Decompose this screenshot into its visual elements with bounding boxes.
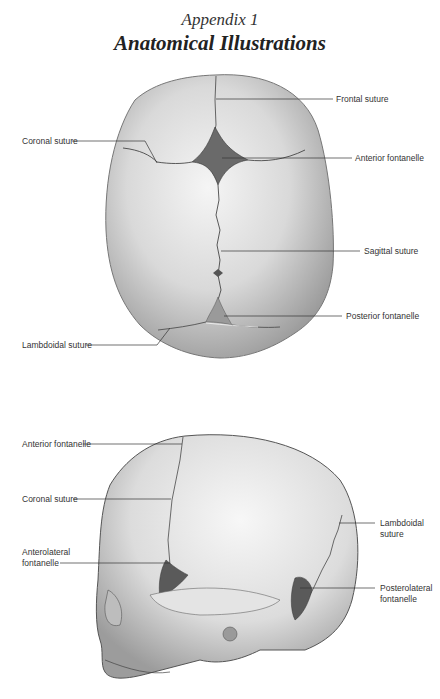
label-lambdoidal-suture-side-1: Lambdoidal xyxy=(380,518,424,529)
side-view-skull xyxy=(96,435,358,678)
label-anterior-fontanelle-top: Anterior fontanelle xyxy=(355,153,424,164)
label-posterior-fontanelle: Posterior fontanelle xyxy=(346,311,419,322)
label-posterolateral-fontanelle-2: fontanelle xyxy=(380,594,417,605)
label-coronal-suture-side: Coronal suture xyxy=(22,494,78,505)
label-posterolateral-fontanelle-1: Posterolateral xyxy=(380,583,432,594)
label-anterolateral-fontanelle-2: fontanelle xyxy=(22,558,59,569)
label-frontal-suture: Frontal suture xyxy=(336,94,388,105)
label-coronal-suture-top: Coronal suture xyxy=(22,136,78,147)
label-lambdoidal-suture-side-2: suture xyxy=(380,529,404,540)
label-anterior-fontanelle-side: Anterior fontanelle xyxy=(22,439,91,450)
top-view-skull xyxy=(106,75,334,358)
label-lambdoidal-suture-top: Lambdoidal suture xyxy=(22,340,92,351)
label-sagittal-suture: Sagittal suture xyxy=(364,246,418,257)
label-anterolateral-fontanelle-1: Anterolateral xyxy=(22,547,70,558)
